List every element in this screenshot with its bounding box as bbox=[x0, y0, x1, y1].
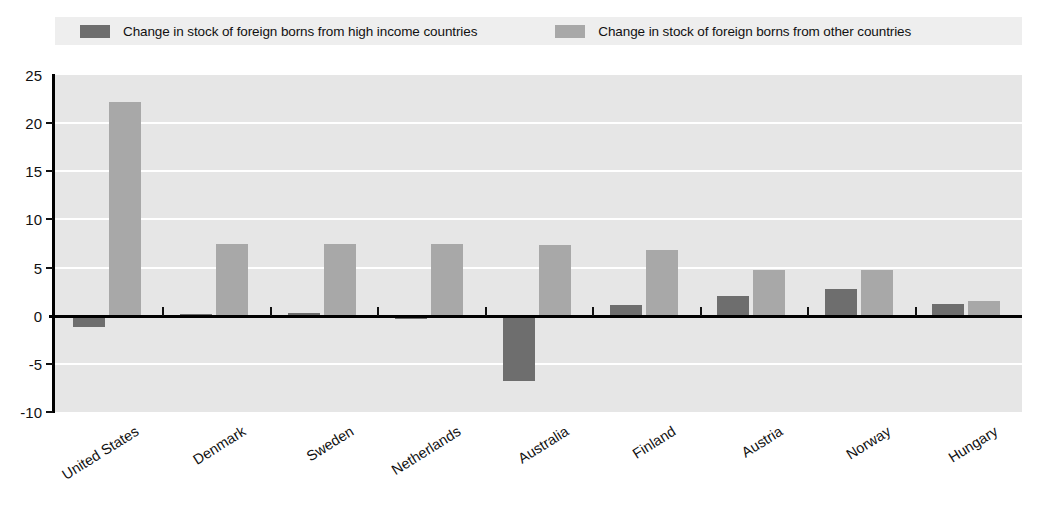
x-axis-tick bbox=[915, 307, 917, 316]
x-axis-tick bbox=[700, 307, 702, 316]
chart-plot-frame: 2520151050-5-10United StatesDenmarkSwede… bbox=[55, 75, 1022, 412]
legend-item-high-income[interactable]: Change in stock of foreign borns from hi… bbox=[80, 24, 477, 39]
x-axis-tick bbox=[270, 307, 272, 316]
x-axis-category-label: Sweden bbox=[303, 423, 356, 464]
bar-other-united-states[interactable] bbox=[109, 102, 141, 316]
y-axis-tick bbox=[46, 363, 53, 365]
chart-plot-area bbox=[55, 75, 1022, 412]
legend-label-high-income: Change in stock of foreign borns from hi… bbox=[123, 24, 477, 39]
x-axis-category-label: Finland bbox=[630, 423, 679, 462]
zero-baseline bbox=[49, 315, 1022, 318]
y-axis-label: 10 bbox=[25, 211, 42, 228]
y-axis-label: -5 bbox=[29, 355, 42, 372]
bar-other-sweden[interactable] bbox=[324, 244, 356, 316]
x-axis-tick bbox=[377, 307, 379, 316]
bar-other-austria[interactable] bbox=[753, 270, 785, 316]
clipped-title-remnant bbox=[0, 0, 1047, 10]
x-axis-tick bbox=[592, 307, 594, 316]
bar-group bbox=[503, 75, 571, 412]
bar-group bbox=[288, 75, 356, 412]
y-axis-label: 25 bbox=[25, 67, 42, 84]
y-axis-tick bbox=[46, 122, 53, 124]
legend-swatch-other-icon bbox=[555, 25, 585, 38]
x-axis-category-label: United States bbox=[59, 423, 141, 483]
y-axis-tick bbox=[46, 170, 53, 172]
x-axis-category-label: Australia bbox=[515, 423, 571, 466]
y-axis-label: 0 bbox=[34, 307, 42, 324]
x-axis-category-label: Hungary bbox=[946, 423, 1001, 466]
chart-legend: Change in stock of foreign borns from hi… bbox=[55, 17, 1022, 45]
x-axis-tick bbox=[485, 307, 487, 316]
bar-high-income-norway[interactable] bbox=[825, 289, 857, 316]
bar-other-finland[interactable] bbox=[646, 250, 678, 315]
legend-swatch-high-income-icon bbox=[80, 25, 110, 38]
x-axis-category-label: Netherlands bbox=[389, 423, 464, 478]
bar-group bbox=[395, 75, 463, 412]
legend-label-other-countries: Change in stock of foreign borns from ot… bbox=[598, 24, 911, 39]
y-axis-tick bbox=[46, 218, 53, 220]
y-axis-label: -10 bbox=[20, 404, 42, 421]
bar-group bbox=[180, 75, 248, 412]
bar-group bbox=[825, 75, 893, 412]
bar-other-netherlands[interactable] bbox=[431, 244, 463, 316]
bar-other-denmark[interactable] bbox=[216, 244, 248, 316]
x-axis-tick bbox=[162, 307, 164, 316]
bar-high-income-austria[interactable] bbox=[717, 296, 749, 316]
y-axis-label: 15 bbox=[25, 163, 42, 180]
x-axis-category-label: Austria bbox=[739, 423, 786, 460]
y-axis-tick bbox=[46, 267, 53, 269]
bar-group bbox=[73, 75, 141, 412]
legend-item-other-countries[interactable]: Change in stock of foreign borns from ot… bbox=[555, 24, 911, 39]
x-axis-category-label: Denmark bbox=[190, 423, 248, 468]
bar-group bbox=[717, 75, 785, 412]
bar-high-income-australia[interactable] bbox=[503, 316, 535, 381]
x-axis-tick bbox=[807, 307, 809, 316]
bar-other-hungary[interactable] bbox=[968, 301, 1000, 315]
y-axis-label: 5 bbox=[34, 259, 42, 276]
y-axis-label: 20 bbox=[25, 115, 42, 132]
bar-other-norway[interactable] bbox=[861, 270, 893, 316]
x-axis-category-label: Norway bbox=[843, 423, 893, 463]
bar-group bbox=[610, 75, 678, 412]
bar-other-australia[interactable] bbox=[539, 245, 571, 315]
bar-group bbox=[932, 75, 1000, 412]
y-axis-tick bbox=[46, 411, 53, 413]
